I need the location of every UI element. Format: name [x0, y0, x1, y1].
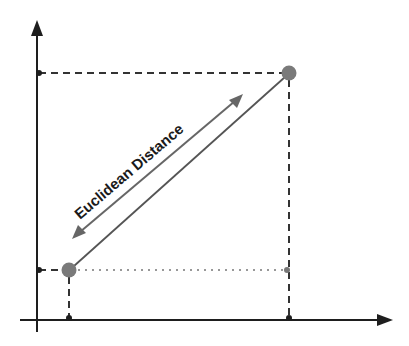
x-marker-right [286, 315, 292, 321]
y-axis-arrowhead-icon [31, 20, 43, 36]
x-marker-left [66, 315, 72, 321]
arrowhead-down-icon [72, 225, 86, 239]
double-arrow [72, 94, 243, 239]
y-marker-top [36, 70, 42, 76]
projection-guides [39, 73, 289, 318]
euclidean-distance-diagram: Euclidean Distance [0, 0, 409, 346]
arrowhead-up-icon [229, 94, 243, 108]
x-axis-arrowhead-icon [377, 314, 393, 326]
double-arrow-shaft [80, 101, 235, 232]
distance-line [74, 77, 285, 266]
point-b [282, 66, 297, 81]
euclidean-distance-label: Euclidean Distance [71, 120, 187, 222]
point-a [62, 263, 77, 278]
corner-marker [284, 267, 290, 273]
axis-markers [36, 70, 292, 321]
y-marker-bottom [36, 267, 42, 273]
axes [20, 20, 393, 332]
